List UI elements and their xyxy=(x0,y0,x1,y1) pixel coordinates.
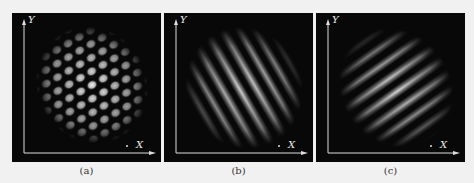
caption-b: (b) xyxy=(164,165,313,176)
panel-b-image: Y X xyxy=(164,13,313,162)
panel-a-image: Y X xyxy=(12,13,161,162)
caption-c: (c) xyxy=(316,165,465,176)
x-axis-label: X xyxy=(136,139,143,150)
y-axis-label: Y xyxy=(332,14,339,25)
y-axis-label: Y xyxy=(28,14,35,25)
caption-a: (a) xyxy=(12,165,161,176)
x-axis-label: X xyxy=(288,139,295,150)
y-axis-label: Y xyxy=(180,14,187,25)
panel-c-image: Y X xyxy=(316,13,465,162)
x-axis-label: X xyxy=(440,139,447,150)
